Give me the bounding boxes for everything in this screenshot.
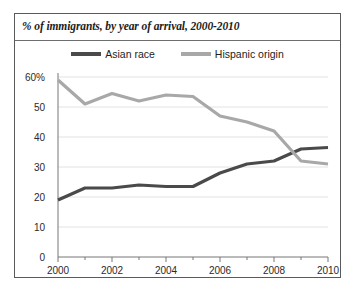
y-tick-label: 60%: [15, 72, 45, 83]
chart-figure: % of immigrants, by year of arrival, 200…: [14, 13, 341, 278]
y-tick-label: 40: [15, 132, 45, 143]
x-tick-label: 2002: [95, 265, 129, 276]
y-tick-label: 30: [15, 162, 45, 173]
y-tick-label: 0: [15, 252, 45, 263]
plot-area: 0102030405060% 200020022004200620082010: [15, 14, 340, 277]
x-tick-label: 2004: [149, 265, 183, 276]
y-tick-label: 10: [15, 222, 45, 233]
x-tick-label: 2006: [203, 265, 237, 276]
x-tick-label: 2010: [311, 265, 345, 276]
x-tick-label: 2008: [257, 265, 291, 276]
x-tick-label: 2000: [41, 265, 75, 276]
chart-canvas: [15, 14, 340, 277]
y-tick-label: 20: [15, 192, 45, 203]
y-tick-label: 50: [15, 102, 45, 113]
